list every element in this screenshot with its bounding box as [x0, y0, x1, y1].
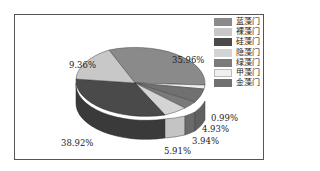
legend-label: 蓝藻门	[236, 17, 260, 27]
legend-label: 绿藻门	[236, 58, 260, 68]
data-label-euglenophyta: 9.36%	[69, 60, 96, 70]
legend-swatch	[214, 59, 232, 67]
legend-swatch	[214, 28, 232, 36]
data-label-chrysophyta: 4.93%	[202, 124, 229, 134]
data-label-cyanophyta: 35.96%	[172, 55, 204, 65]
pie-side-green	[185, 112, 195, 135]
legend-label: 金藻门	[236, 78, 260, 88]
legend-swatch	[214, 79, 232, 87]
legend-label: 硅藻门	[236, 37, 260, 47]
legend-item: 绿藻门	[214, 58, 266, 68]
legend-item: 金藻门	[214, 78, 266, 88]
data-label-chlorophyta: 3.94%	[192, 136, 219, 146]
legend-swatch	[214, 18, 232, 26]
data-label-cryptophyta: 5.91%	[164, 146, 191, 156]
legend-label: 隐藻门	[236, 48, 260, 58]
legend-item: 隐藻门	[214, 48, 266, 58]
legend-item: 硅藻门	[214, 37, 266, 47]
pie-side-cryptophyta	[165, 116, 185, 138]
legend-item: 蓝藻门	[214, 17, 266, 27]
legend-label: 甲藻门	[236, 68, 260, 78]
legend-item: 甲藻门	[214, 68, 266, 78]
legend-swatch	[214, 38, 232, 46]
legend-swatch	[214, 69, 232, 77]
legend: 蓝藻门 裸藻门 硅藻门 隐藻门 绿藻门 甲藻门 金藻门	[214, 17, 266, 88]
data-label-bacillariophyta: 38.92%	[61, 138, 93, 148]
legend-item: 裸藻门	[214, 27, 266, 37]
legend-swatch	[214, 49, 232, 57]
legend-label: 裸藻门	[236, 27, 260, 37]
data-label-pyrrophyta: 0.99%	[211, 113, 238, 123]
